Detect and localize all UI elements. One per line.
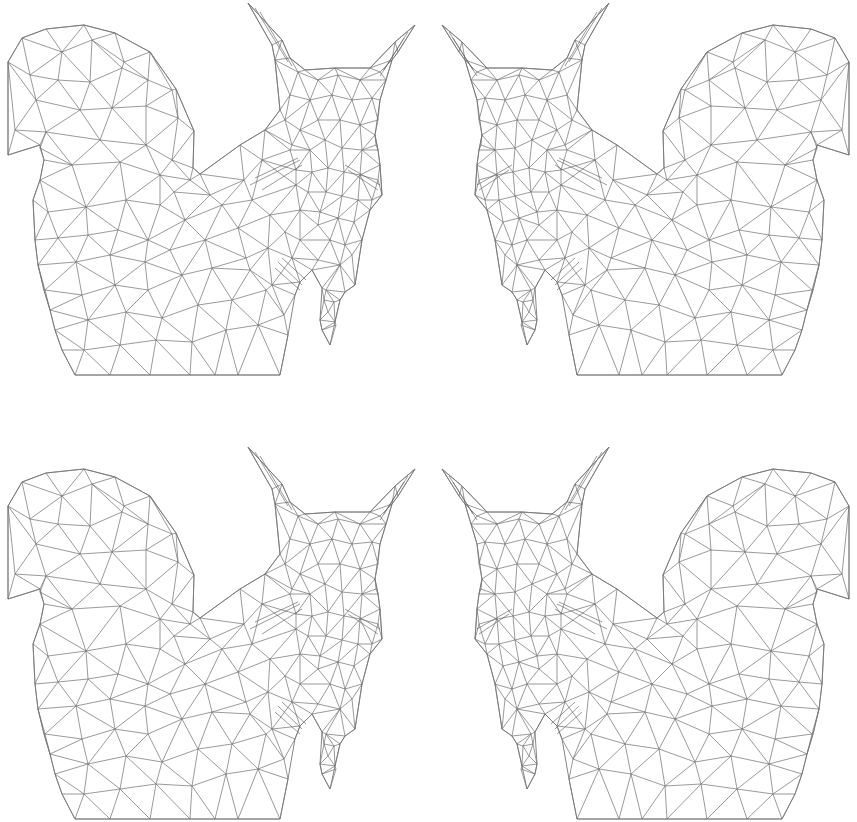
squirrel-mesh-top-left (8, 3, 415, 375)
squirrel-mesh-top-right (442, 3, 849, 375)
squirrel-mesh-bottom-right (442, 447, 849, 819)
figure-grid (8, 3, 849, 819)
mesh-canvas (0, 0, 857, 822)
squirrel-mesh-bottom-left (8, 447, 415, 819)
